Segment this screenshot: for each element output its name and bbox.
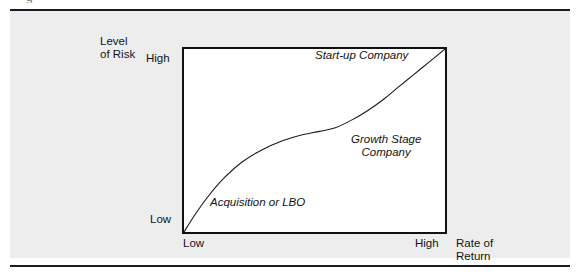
annotation-acquisition-or-lbo: Acquisition or LBO	[210, 196, 305, 209]
figure-panel: Level of Risk Rate of Return High Low Lo…	[10, 11, 570, 258]
clipped-caption-glyph: g	[26, 0, 36, 3]
x-axis-tick-low: Low	[183, 237, 204, 250]
bottom-divider-rule	[10, 265, 570, 267]
x-axis-tick-high: High	[415, 237, 439, 250]
x-axis-title: Rate of Return	[456, 237, 493, 263]
y-axis-tick-high: High	[146, 52, 170, 65]
y-axis-tick-low: Low	[150, 213, 171, 226]
annotation-growth-stage-company: Growth Stage Company	[351, 133, 421, 159]
y-axis-title: Level of Risk	[100, 35, 135, 61]
annotation-startup-company: Start-up Company	[315, 49, 408, 62]
